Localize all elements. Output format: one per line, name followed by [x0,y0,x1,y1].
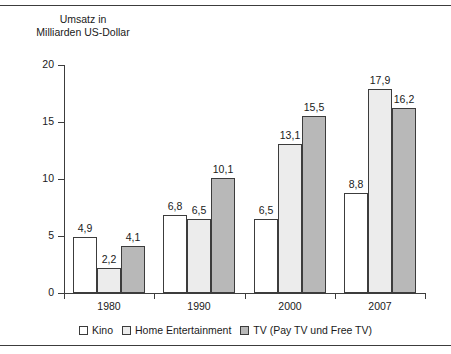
bar-value-label: 10,1 [204,163,242,175]
x-axis-end-tick [425,293,426,299]
y-axis-tick [58,65,64,66]
x-axis-origin-tick [64,293,65,299]
legend-item: Home Entertainment [122,324,231,336]
bar-2007-kino [344,193,368,293]
bar-value-label: 4,1 [114,231,152,243]
x-axis-group-separator [154,293,155,299]
bar-value-label: 16,2 [385,93,423,105]
bar-1980-kino [73,237,97,293]
x-axis-group-separator [335,293,336,299]
legend-swatch-icon [79,326,88,335]
chart-plot-area: 051015204,92,24,119806,86,510,119906,513… [0,0,451,354]
y-axis-tick-label: 10 [20,172,54,184]
bar-2007-home-entertainment [368,89,392,293]
bar-value-label: 17,9 [361,74,399,86]
bar-1980-tv-pay-tv-und-free-tv [121,246,145,293]
bar-1990-home-entertainment [187,219,211,293]
legend-item-label: Home Entertainment [135,324,231,336]
chart-legend: KinoHome EntertainmentTV (Pay TV und Fre… [0,324,451,336]
x-axis-category-label: 1980 [79,300,139,312]
legend-swatch-icon [240,326,249,335]
y-axis-tick [58,122,64,123]
bar-2000-kino [254,219,278,293]
legend-item-label: TV (Pay TV und Free TV) [253,324,372,336]
y-axis-tick [58,236,64,237]
bar-2000-home-entertainment [278,144,302,293]
bar-1990-tv-pay-tv-und-free-tv [211,178,235,293]
y-axis-tick-label: 15 [20,115,54,127]
bar-1980-home-entertainment [97,268,121,293]
y-axis-tick-label: 0 [20,286,54,298]
x-axis-category-label: 1990 [169,300,229,312]
legend-swatch-icon [122,326,131,335]
bar-2000-tv-pay-tv-und-free-tv [302,116,326,293]
x-axis-group-separator [245,293,246,299]
legend-item-label: Kino [92,324,113,336]
bar-value-label: 15,5 [295,101,333,113]
legend-item: TV (Pay TV und Free TV) [240,324,372,336]
legend-item: Kino [79,324,113,336]
bar-2007-tv-pay-tv-und-free-tv [392,108,416,293]
y-axis-tick-label: 5 [20,229,54,241]
x-axis-category-label: 2007 [350,300,410,312]
x-axis-category-label: 2000 [260,300,320,312]
y-axis-tick [58,179,64,180]
y-axis-line [64,65,65,294]
bar-1990-kino [163,215,187,293]
bar-value-label: 4,9 [66,222,104,234]
y-axis-tick-label: 20 [20,58,54,70]
